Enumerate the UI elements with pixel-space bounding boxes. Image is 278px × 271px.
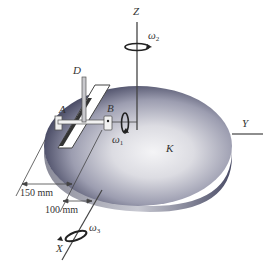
y-axis-label: Y <box>242 118 248 129</box>
x-axis-label: X <box>56 243 63 254</box>
omega3-label: ω3 <box>89 222 100 235</box>
body-k-label: K <box>166 143 173 154</box>
point-b-label: B <box>107 103 114 114</box>
dimension-150mm: 150 mm <box>20 188 53 198</box>
point-a-label: A <box>59 104 66 115</box>
rod-d <box>82 77 86 122</box>
z-axis-label: Z <box>133 6 139 17</box>
disk-body <box>44 86 232 212</box>
omega1-label: ω1 <box>112 134 123 147</box>
point-d-label: D <box>73 65 81 76</box>
dimension-100mm: 100 mm <box>45 205 78 215</box>
omega2-label: ω2 <box>148 30 159 43</box>
diagram-canvas <box>0 0 278 271</box>
bracket-b <box>104 116 112 130</box>
